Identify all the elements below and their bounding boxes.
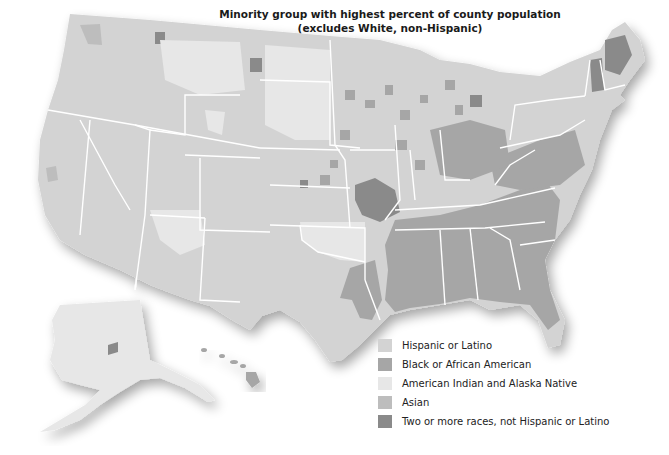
legend-item-two-or-more: Two or more races, not Hispanic or Latin… bbox=[378, 412, 668, 431]
hawaii-island bbox=[230, 360, 238, 364]
legend-item-hispanic: Hispanic or Latino bbox=[378, 336, 668, 355]
region-asian-bay-area bbox=[46, 166, 58, 182]
legend-label: Black or African American bbox=[402, 359, 531, 370]
hawaii-big-island bbox=[246, 372, 260, 388]
legend-label: Asian bbox=[402, 397, 429, 408]
legend-swatch-asian bbox=[378, 396, 392, 409]
map-legend: Hispanic or Latino Black or African Amer… bbox=[378, 336, 668, 431]
legend-item-black: Black or African American bbox=[378, 355, 668, 374]
region-american-indian-great-plains bbox=[265, 45, 330, 140]
legend-swatch-american-indian bbox=[378, 377, 392, 390]
legend-label: American Indian and Alaska Native bbox=[402, 378, 577, 389]
legend-swatch-black bbox=[378, 358, 392, 371]
county-two-or-more bbox=[470, 95, 482, 107]
legend-item-asian: Asian bbox=[378, 393, 668, 412]
hawaii bbox=[201, 348, 260, 388]
county-two-or-more bbox=[250, 58, 262, 72]
legend-swatch-two-or-more bbox=[378, 415, 392, 428]
legend-swatch-hispanic bbox=[378, 339, 392, 352]
alaska bbox=[40, 300, 215, 432]
hawaii-island bbox=[219, 354, 225, 358]
legend-label: Hispanic or Latino bbox=[402, 340, 492, 351]
hawaii-island bbox=[201, 348, 207, 352]
legend-item-american-indian: American Indian and Alaska Native bbox=[378, 374, 668, 393]
alaska-landmass bbox=[40, 300, 215, 432]
legend-label: Two or more races, not Hispanic or Latin… bbox=[402, 416, 609, 427]
hawaii-island bbox=[240, 364, 246, 368]
